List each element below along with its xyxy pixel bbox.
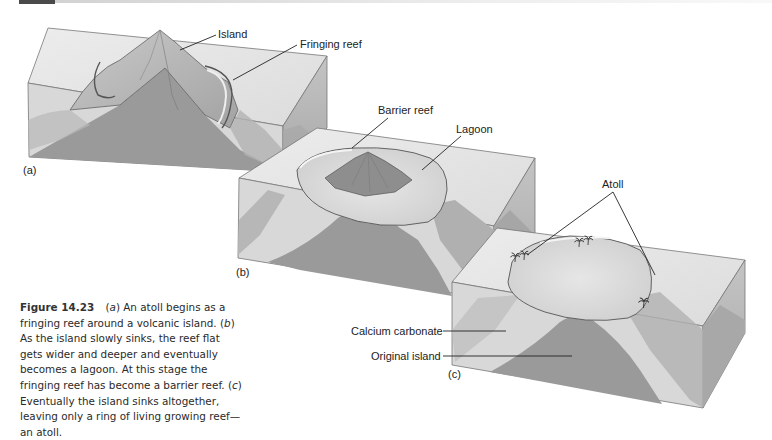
- panel-marker-a: (a): [23, 164, 36, 176]
- label-fringing-reef: Fringing reef: [300, 38, 362, 50]
- label-calcium-carbonate: Calcium carbonate: [351, 325, 443, 337]
- caption-marker-a: a: [110, 301, 116, 313]
- label-atoll: Atoll: [602, 178, 623, 190]
- block-c: [452, 228, 745, 408]
- label-island: Island: [218, 28, 247, 40]
- caption-marker-c: c: [232, 379, 238, 391]
- label-lagoon: Lagoon: [456, 123, 493, 135]
- figure-caption: Figure 14.23 (a) An atoll begins as a fr…: [20, 300, 245, 440]
- label-barrier-reef: Barrier reef: [378, 104, 433, 116]
- caption-text-c: Eventually the island sinks altogether, …: [20, 395, 240, 438]
- caption-text-b: As the island slowly sinks, the reef fla…: [20, 332, 225, 391]
- figure-number: Figure 14.23: [20, 301, 94, 313]
- panel-marker-b: (b): [236, 266, 249, 278]
- panel-marker-c: (c): [448, 368, 461, 380]
- caption-marker-b: b: [224, 317, 231, 329]
- label-original-island: Original island: [371, 350, 441, 362]
